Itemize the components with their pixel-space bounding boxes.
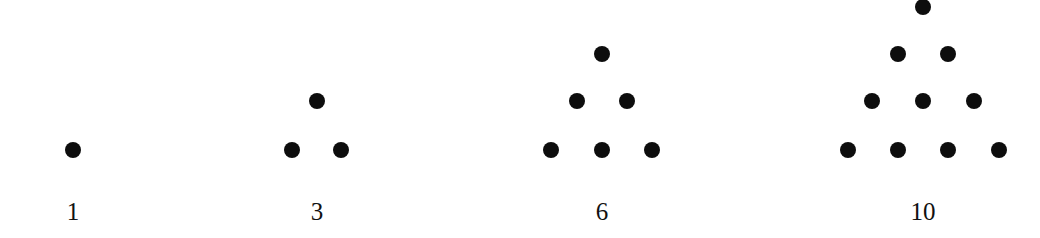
dot xyxy=(915,0,931,15)
dot xyxy=(840,142,856,158)
figure-label: 6 xyxy=(596,199,609,224)
dot xyxy=(864,93,880,109)
dot xyxy=(569,93,585,109)
dot xyxy=(284,142,300,158)
dot xyxy=(543,142,559,158)
dot xyxy=(594,46,610,62)
figure-label: 10 xyxy=(911,199,936,224)
dot xyxy=(594,142,610,158)
dot xyxy=(940,46,956,62)
dot xyxy=(890,46,906,62)
dot xyxy=(890,142,906,158)
triangular-numbers-diagram: 1 3 6 10 xyxy=(0,0,1040,238)
dot xyxy=(309,93,325,109)
figure-label: 3 xyxy=(311,199,324,224)
dot xyxy=(966,93,982,109)
dot xyxy=(644,142,660,158)
dot xyxy=(333,142,349,158)
dot xyxy=(991,142,1007,158)
figure-label: 1 xyxy=(67,199,80,224)
dot xyxy=(65,142,81,158)
dot xyxy=(619,93,635,109)
dot xyxy=(915,93,931,109)
dot xyxy=(940,142,956,158)
